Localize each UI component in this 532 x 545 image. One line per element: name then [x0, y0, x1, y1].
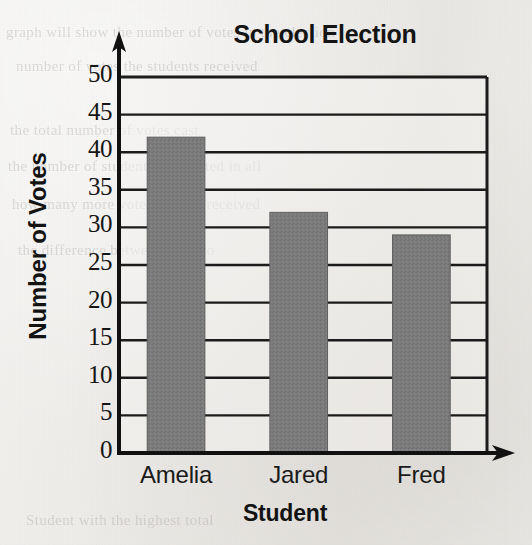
- plot-area: [0, 0, 532, 545]
- bar-chart: School Election Number of Votes Student …: [0, 0, 532, 545]
- bar: [147, 137, 205, 453]
- bar: [393, 235, 451, 453]
- bar: [270, 212, 328, 453]
